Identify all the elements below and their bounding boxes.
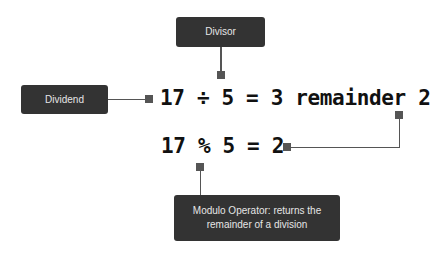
dividend-connector — [108, 99, 146, 101]
dividend-label-text: Dividend — [45, 93, 84, 107]
division-equation: 17 ÷ 5 = 3 remainder 2 — [160, 86, 430, 110]
modulo-label-text: Modulo Operator: returns the remainder o… — [182, 204, 332, 232]
divisor-connector — [220, 47, 222, 72]
remainder-connector-vertical — [399, 119, 401, 148]
modulo-label: Modulo Operator: returns the remainder o… — [174, 195, 340, 241]
modulo-operator-marker — [196, 163, 204, 171]
modulo-connector — [200, 171, 202, 195]
remainder-connector-horizontal — [291, 147, 400, 149]
dividend-marker — [145, 95, 153, 103]
modulo-equation: 17 % 5 = 2 — [161, 134, 284, 158]
remainder-marker — [395, 111, 403, 119]
divisor-marker — [217, 71, 225, 79]
divisor-label: Divisor — [176, 17, 265, 47]
divisor-label-text: Divisor — [205, 25, 236, 39]
dividend-label: Dividend — [21, 85, 108, 114]
modulo-result-marker — [283, 143, 291, 151]
